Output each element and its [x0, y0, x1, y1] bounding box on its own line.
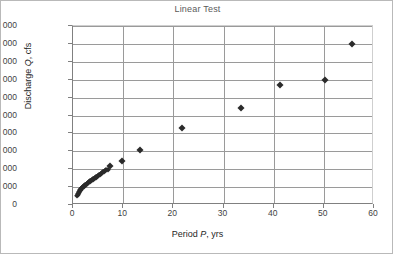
- x-axis-title: Period P, yrs: [1, 229, 393, 239]
- gridline-horizontal: [73, 133, 372, 134]
- y-axis-tick-label: 5 000: [0, 181, 17, 191]
- gridline-horizontal: [73, 116, 372, 117]
- chart-figure: Linear Test 05 00010 00015 00020 00025 0…: [0, 0, 393, 254]
- y-axis-title-post: , cfs: [23, 43, 33, 60]
- gridline-horizontal: [73, 44, 372, 45]
- gridline-horizontal: [73, 62, 372, 63]
- data-point-marker: [238, 104, 245, 111]
- data-point-marker: [277, 82, 284, 89]
- x-axis-title-pre: Period: [172, 229, 201, 239]
- x-axis-tick-mark: [223, 204, 224, 208]
- x-axis-tick-label: 0: [70, 208, 75, 218]
- y-axis-title-symbol: Q: [23, 59, 33, 66]
- gridline-horizontal: [73, 187, 372, 188]
- data-point-marker: [322, 76, 329, 83]
- x-axis-tick-mark: [172, 204, 173, 208]
- x-axis-tick-mark: [323, 204, 324, 208]
- x-axis-tick-mark: [122, 204, 123, 208]
- x-axis-tick-mark: [273, 204, 274, 208]
- y-axis-tick-label: 20 000: [0, 127, 17, 137]
- x-axis-tick-label: 40: [268, 208, 277, 218]
- data-point-marker: [178, 125, 185, 132]
- gridline-vertical: [224, 26, 225, 203]
- x-axis-title-post: , yrs: [206, 229, 223, 239]
- x-axis-tick-label: 10: [117, 208, 126, 218]
- x-axis-tick-label: 60: [368, 208, 377, 218]
- x-axis-tick-label: 20: [168, 208, 177, 218]
- y-axis-tick-label: 30 000: [0, 92, 17, 102]
- gridline-vertical: [173, 26, 174, 203]
- gridline-horizontal: [73, 151, 372, 152]
- y-axis-tick-label: 50 000: [0, 20, 17, 30]
- y-axis-tick-label: 15 000: [0, 145, 17, 155]
- data-point-marker: [107, 162, 114, 169]
- x-axis-tick-label: 30: [218, 208, 227, 218]
- gridline-vertical: [324, 26, 325, 203]
- gridline-vertical: [274, 26, 275, 203]
- x-axis-tick-mark: [72, 204, 73, 208]
- y-axis-tick-label: 40 000: [0, 56, 17, 66]
- data-point-marker: [349, 40, 356, 47]
- gridline-vertical: [123, 26, 124, 203]
- y-axis-title-pre: Discharge: [23, 66, 33, 109]
- y-axis-tick-label: 0: [12, 199, 17, 209]
- y-axis-tick-label: 25 000: [0, 110, 17, 120]
- y-axis-tick-label: 10 000: [0, 163, 17, 173]
- gridline-horizontal: [73, 169, 372, 170]
- y-axis-tick-label: 45 000: [0, 38, 17, 48]
- y-axis-title: Discharge Q, cfs: [23, 0, 33, 156]
- plot-area: [72, 25, 373, 204]
- chart-title: Linear Test: [1, 4, 393, 14]
- y-axis-tick-label: 35 000: [0, 74, 17, 84]
- x-axis-tick-label: 50: [318, 208, 327, 218]
- x-axis-tick-mark: [373, 204, 374, 208]
- gridline-horizontal: [73, 26, 372, 27]
- gridline-horizontal: [73, 98, 372, 99]
